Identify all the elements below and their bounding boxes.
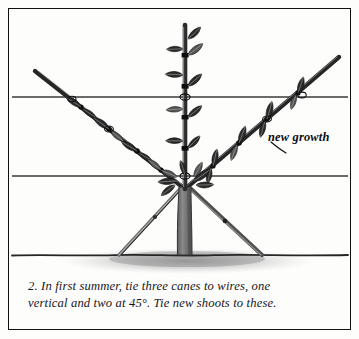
left-stake-node	[153, 215, 157, 219]
right-cane-stem	[185, 57, 339, 189]
right-stake-node	[223, 219, 228, 224]
left-support-stake-highlight	[119, 189, 180, 255]
caption-line-1: 2. In first summer, tie three canes to w…	[28, 278, 331, 295]
right-cane-highlight	[185, 57, 337, 187]
annotation-new-growth-label: new growth	[268, 130, 330, 145]
caption-line-2: vertical and two at 45°. Tie new shoots …	[28, 295, 331, 312]
figure-frame: new growth 2. In first summer, tie three…	[0, 0, 359, 339]
right-cane-45	[185, 57, 339, 189]
left-support-stake-edge	[121, 188, 183, 255]
figure-caption: 2. In first summer, tie three canes to w…	[9, 278, 350, 328]
